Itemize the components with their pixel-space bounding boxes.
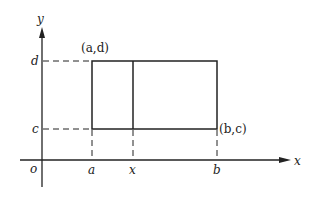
x-axis-arrow-icon [279, 157, 291, 163]
dashed-guides [43, 61, 217, 160]
corner-label-bottom-right: (b,c) [219, 122, 247, 136]
origin-label: o [30, 162, 37, 176]
x-tick-a: a [88, 163, 95, 177]
corner-label-top-left: (a,d) [81, 41, 109, 55]
rectangle-region-diagram: y x o d c a x b (a,d) (b,c) [0, 0, 313, 197]
y-axis-arrow-icon [39, 27, 45, 38]
x-axis [20, 157, 291, 163]
y-tick-c: c [32, 122, 39, 136]
y-tick-d: d [31, 54, 39, 68]
x-tick-b: b [213, 163, 221, 177]
region-rectangle [92, 61, 217, 129]
x-axis-label: x [294, 154, 301, 168]
y-axis [39, 27, 45, 187]
x-tick-x: x [129, 163, 136, 177]
y-axis-label: y [36, 12, 44, 26]
